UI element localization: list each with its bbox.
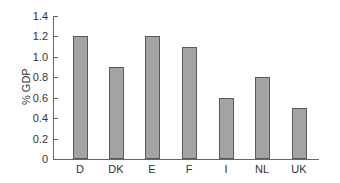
y-tick [53,57,58,58]
x-tick-label: DK [101,163,131,175]
bar-uk [292,108,307,159]
y-tick-label: 1.2 [18,30,48,42]
y-tick [53,77,58,78]
bar-f [182,47,197,159]
y-tick [53,139,58,140]
y-tick-label: 1.4 [18,10,48,22]
y-tick [53,159,58,160]
y-tick [53,16,58,17]
y-tick-label: 0.4 [18,112,48,124]
y-tick-label: 0.8 [18,71,48,83]
bar-dk [109,67,124,159]
y-tick-label: 0.2 [18,133,48,145]
bar-d [73,36,88,159]
y-tick [53,36,58,37]
x-tick-label: D [65,163,95,175]
y-tick [53,98,58,99]
y-tick-label: 1.0 [18,51,48,63]
x-tick-label: E [137,163,167,175]
x-tick-label: F [174,163,204,175]
bar-i [219,98,234,159]
bar-chart: % GDP 00.20.40.60.81.01.21.4 DDKEFINLUK [0,0,340,183]
x-tick-label: NL [247,163,277,175]
x-tick-label: UK [284,163,314,175]
y-tick [53,118,58,119]
x-axis [53,159,319,160]
y-tick-label: 0.6 [18,92,48,104]
bar-nl [255,77,270,159]
y-tick-label: 0 [18,153,48,165]
bar-e [145,36,160,159]
x-tick-label: I [211,163,241,175]
